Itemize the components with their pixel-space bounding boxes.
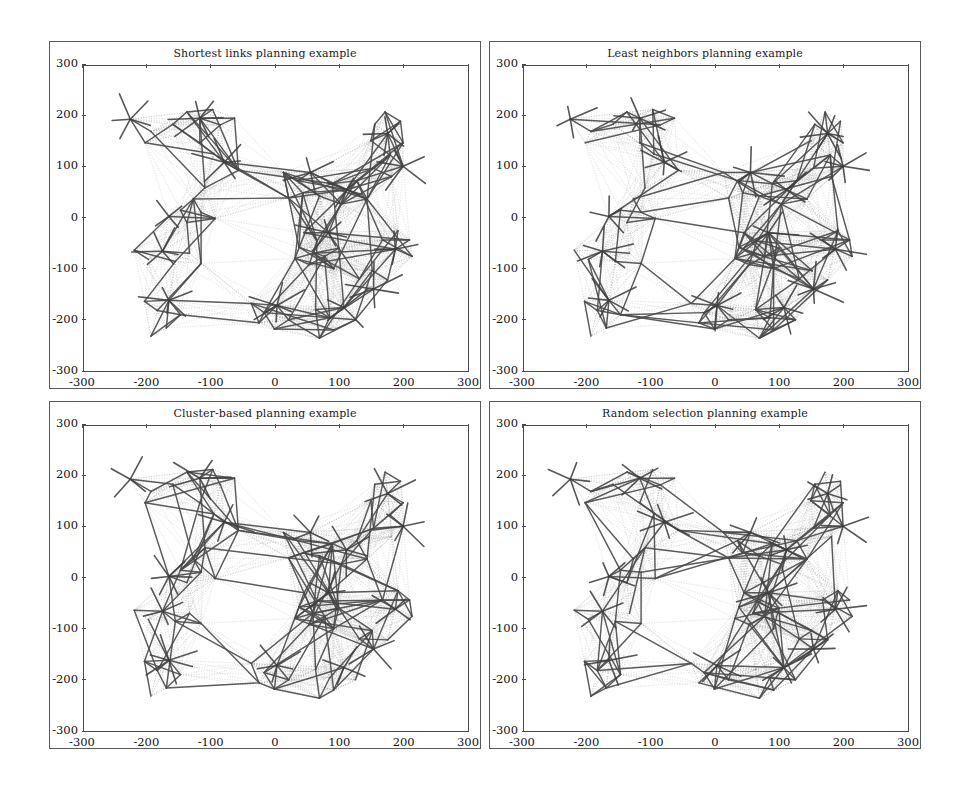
y-tick-label: 300 <box>474 416 518 430</box>
y-tick-mark <box>82 679 86 680</box>
x-tick-label: 100 <box>754 375 804 389</box>
x-tick-label: 200 <box>379 735 429 749</box>
x-tick-label: -200 <box>561 375 611 389</box>
x-tick-mark <box>468 64 469 68</box>
x-tick-mark <box>339 424 340 428</box>
subplot-title-cluster-based: Cluster-based planning example <box>50 407 480 420</box>
y-tick-label: -200 <box>34 312 78 326</box>
y-tick-label: 200 <box>474 467 518 481</box>
y-tick-label: 0 <box>34 210 78 224</box>
subplot-cluster-based: Cluster-based planning example <box>49 401 481 749</box>
x-tick-mark <box>715 64 716 68</box>
x-tick-mark <box>908 424 909 428</box>
y-tick-label: -100 <box>34 621 78 635</box>
x-tick-label: 0 <box>690 375 740 389</box>
y-tick-mark <box>522 64 526 65</box>
x-tick-mark <box>146 424 147 428</box>
hub-spokes-layer <box>548 463 868 685</box>
y-tick-mark <box>522 731 526 732</box>
y-tick-label: 0 <box>34 570 78 584</box>
y-tick-label: 200 <box>474 107 518 121</box>
subplot-random-selection: Random selection planning example <box>489 401 921 749</box>
x-tick-mark <box>146 64 147 68</box>
y-tick-mark <box>82 166 86 167</box>
x-tick-label: -300 <box>57 735 107 749</box>
x-tick-label: -100 <box>186 735 236 749</box>
y-tick-mark <box>522 577 526 578</box>
x-tick-mark <box>468 424 469 428</box>
network-graph-shortest-links <box>84 66 469 372</box>
x-tick-mark <box>339 64 340 68</box>
x-tick-label: -200 <box>561 735 611 749</box>
y-tick-label: 0 <box>474 210 518 224</box>
y-tick-label: -100 <box>34 261 78 275</box>
y-tick-mark <box>522 217 526 218</box>
figure-canvas: Shortest links planning example300200100… <box>0 0 961 792</box>
y-tick-mark <box>522 166 526 167</box>
y-tick-label: -200 <box>474 672 518 686</box>
y-tick-mark <box>522 628 526 629</box>
y-tick-label: 200 <box>34 107 78 121</box>
y-tick-label: -200 <box>474 312 518 326</box>
x-tick-label: -100 <box>186 375 236 389</box>
network-graph-cluster-based <box>84 426 469 732</box>
plot-area-least-neighbors <box>523 65 909 372</box>
x-tick-label: 300 <box>443 735 493 749</box>
y-tick-label: -100 <box>474 261 518 275</box>
x-tick-label: 300 <box>443 375 493 389</box>
x-tick-label: 100 <box>754 735 804 749</box>
y-tick-mark <box>522 115 526 116</box>
x-tick-mark <box>210 64 211 68</box>
y-tick-mark <box>82 115 86 116</box>
subplot-shortest-links: Shortest links planning example <box>49 41 481 389</box>
candidate-links-layer <box>570 469 852 698</box>
y-tick-label: 200 <box>34 467 78 481</box>
x-tick-label: 200 <box>819 735 869 749</box>
subplot-least-neighbors: Least neighbors planning example <box>489 41 921 389</box>
x-tick-mark <box>403 424 404 428</box>
y-tick-mark <box>82 64 86 65</box>
x-tick-label: 200 <box>379 375 429 389</box>
y-tick-label: 300 <box>474 56 518 70</box>
x-tick-mark <box>779 424 780 428</box>
y-tick-mark <box>522 424 526 425</box>
y-tick-mark <box>522 371 526 372</box>
x-tick-label: 100 <box>314 735 364 749</box>
subplot-title-random-selection: Random selection planning example <box>490 407 920 420</box>
x-tick-mark <box>843 64 844 68</box>
y-tick-mark <box>82 526 86 527</box>
y-tick-mark <box>82 268 86 269</box>
y-tick-label: -200 <box>34 672 78 686</box>
x-tick-label: -200 <box>121 735 171 749</box>
y-tick-label: 100 <box>34 158 78 172</box>
x-tick-label: -200 <box>121 375 171 389</box>
y-tick-mark <box>82 731 86 732</box>
network-graph-random-selection <box>524 426 909 732</box>
y-tick-mark <box>522 526 526 527</box>
x-tick-mark <box>908 64 909 68</box>
y-tick-mark <box>522 475 526 476</box>
x-tick-mark <box>403 64 404 68</box>
x-tick-label: -300 <box>57 375 107 389</box>
y-tick-mark <box>82 217 86 218</box>
x-tick-mark <box>522 424 523 428</box>
x-tick-mark <box>82 424 83 428</box>
y-tick-mark <box>82 424 86 425</box>
y-tick-label: 300 <box>34 416 78 430</box>
plot-area-random-selection <box>523 425 909 732</box>
x-tick-label: 0 <box>250 735 300 749</box>
x-tick-mark <box>586 64 587 68</box>
x-tick-label: 300 <box>883 735 933 749</box>
x-tick-label: 0 <box>690 735 740 749</box>
x-tick-label: -100 <box>626 735 676 749</box>
y-tick-mark <box>522 679 526 680</box>
y-tick-mark <box>82 319 86 320</box>
x-tick-label: -100 <box>626 375 676 389</box>
y-tick-mark <box>82 371 86 372</box>
subplot-title-shortest-links: Shortest links planning example <box>50 47 480 60</box>
x-tick-label: 100 <box>314 375 364 389</box>
x-tick-mark <box>82 64 83 68</box>
x-tick-mark <box>715 424 716 428</box>
y-tick-label: -100 <box>474 621 518 635</box>
y-tick-mark <box>82 475 86 476</box>
